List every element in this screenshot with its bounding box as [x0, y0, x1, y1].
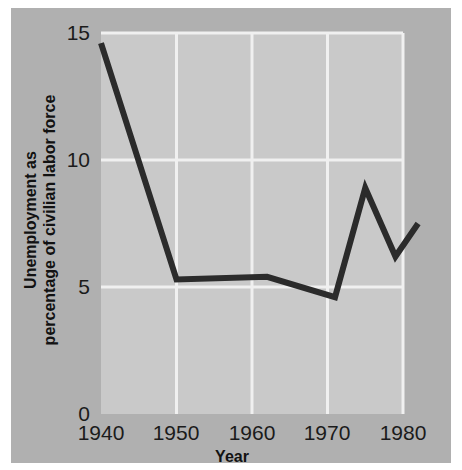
x-tick-label-1940: 1940: [71, 421, 131, 445]
line-chart: [0, 0, 462, 470]
x-tick-label-1970: 1970: [297, 421, 357, 445]
figure: 15 10 5 0 1940 1950 1960 1970 1980 Unemp…: [0, 0, 462, 470]
x-tick-label-1950: 1950: [146, 421, 206, 445]
series-line-0: [101, 43, 418, 297]
x-axis-title: Year: [152, 448, 312, 466]
x-tick-label-1980: 1980: [373, 421, 433, 445]
y-axis-title-line2: percentage of civilian labor force: [41, 95, 58, 346]
data-series: [101, 43, 418, 297]
x-tick-label-1960: 1960: [222, 421, 282, 445]
y-axis-title: Unemployment as percentage of civilian l…: [22, 40, 60, 400]
y-axis-title-line1: Unemployment as: [22, 151, 39, 289]
